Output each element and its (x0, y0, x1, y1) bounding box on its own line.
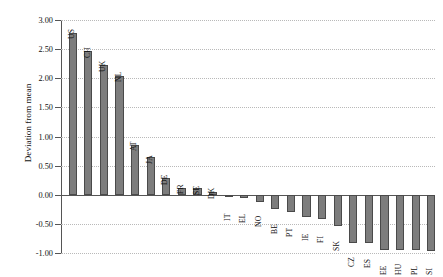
y-axis-tick (55, 166, 61, 167)
bar (225, 195, 233, 197)
bar (427, 195, 435, 251)
y-axis-tick-label: 1.50 (38, 103, 53, 112)
y-axis-tick-label: 2.00 (38, 74, 53, 83)
bar-label: HU (394, 263, 403, 274)
bar (240, 195, 248, 198)
bar (302, 195, 310, 217)
bar-label: DE (160, 174, 169, 185)
y-axis-tick (55, 107, 61, 108)
bar-label: FR (176, 185, 185, 195)
bar-label: EL (238, 213, 247, 223)
bar-label: UK (98, 61, 107, 72)
bar-label: AT (129, 141, 138, 151)
bar-label: BE (270, 224, 279, 234)
y-axis-tick-label: -1.00 (36, 249, 53, 258)
bar-label: IE (301, 234, 310, 242)
y-axis-tick-label: 3.00 (38, 16, 53, 25)
gridline (61, 49, 435, 50)
gridline (61, 224, 435, 225)
y-axis-tick (55, 49, 61, 50)
bar (349, 195, 357, 243)
y-axis-tick (55, 20, 61, 21)
bar-label: CH (83, 47, 92, 58)
bar-label: SI (425, 268, 434, 275)
bar-label: NL (114, 72, 123, 83)
bar (69, 33, 77, 195)
bar (365, 195, 373, 243)
y-axis-title: Deviation from mean (23, 43, 33, 203)
bar (84, 51, 92, 194)
bar (115, 76, 123, 195)
bar (287, 195, 295, 212)
bar (380, 195, 388, 250)
gridline (61, 20, 435, 21)
bar-label: US (67, 29, 76, 39)
y-axis-tick-label: 0.50 (38, 161, 53, 170)
bar (271, 195, 279, 210)
y-axis-tick-label: 1.00 (38, 132, 53, 141)
y-axis-tick-label: 0.00 (38, 190, 53, 199)
bar-label: SE (192, 186, 201, 195)
gridline (61, 253, 435, 254)
bar (318, 195, 326, 219)
bar-label: IT (223, 213, 232, 221)
bar-label: CZ (347, 257, 356, 267)
y-axis-tick (55, 195, 61, 196)
bar-label: PT (285, 227, 294, 236)
bar (396, 195, 404, 250)
bar-label: EE (379, 265, 388, 275)
bar-label: FI (316, 236, 325, 243)
plot-area: 3.002.502.001.501.000.500.00-0.50-1.00 U… (61, 20, 435, 253)
y-axis-tick (55, 78, 61, 79)
bar-label: ES (363, 258, 372, 267)
y-axis-tick (55, 224, 61, 225)
bar (412, 195, 420, 250)
y-axis-tick-label: 2.50 (38, 45, 53, 54)
bar (256, 195, 264, 203)
bar (334, 195, 342, 226)
bar-chart: Deviation from mean 3.002.502.001.501.00… (0, 0, 443, 277)
bar (131, 145, 139, 195)
bar-label: JA (145, 155, 154, 164)
bar-label: DK (207, 188, 216, 199)
bar-label: SK (332, 241, 341, 251)
y-axis-tick (55, 253, 61, 254)
bar-label: PL (410, 265, 419, 274)
y-axis-tick-label: -0.50 (36, 219, 53, 228)
y-axis-tick (55, 137, 61, 138)
bar-label: NO (254, 215, 263, 226)
bar (100, 65, 108, 194)
